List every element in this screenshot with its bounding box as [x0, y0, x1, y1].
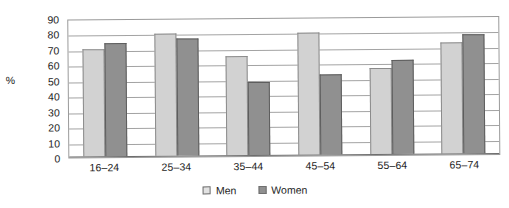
bar-men-55-64 — [369, 67, 392, 154]
bar-men-25-34 — [154, 34, 177, 156]
bar-group-45-54 — [283, 18, 356, 155]
y-axis-tick-80: 80 — [33, 30, 59, 41]
plot-area — [67, 16, 500, 158]
bar-group-35-44 — [212, 19, 285, 156]
y-axis-tick-10: 10 — [34, 138, 60, 149]
bar-women-35-44 — [248, 82, 271, 155]
legend-item-men: Men — [203, 184, 237, 196]
y-axis-tick-60: 60 — [34, 61, 60, 72]
x-axis-label-16-24: 16–24 — [68, 161, 140, 178]
y-axis-tick-70: 70 — [33, 45, 59, 56]
bar-chart: % 9080706050403020100 16–2425–3435–4445–… — [0, 0, 509, 208]
y-axis-tick-40: 40 — [34, 92, 60, 103]
bar-group-55-64 — [355, 18, 428, 155]
x-axis-label-55-64: 55–64 — [356, 159, 428, 176]
x-axis-label-35-44: 35–44 — [212, 160, 284, 177]
x-axis-label-65-74: 65–74 — [428, 158, 500, 175]
chart-legend: Men Women — [1, 182, 509, 198]
bar-men-65-74 — [441, 42, 464, 153]
legend-label-men: Men — [216, 184, 237, 196]
legend-label-women: Women — [271, 184, 307, 196]
y-axis-tick-90: 90 — [33, 15, 59, 26]
bar-women-65-74 — [463, 34, 486, 153]
bar-women-55-64 — [391, 60, 414, 154]
bar-men-45-54 — [297, 32, 320, 154]
bar-groups — [68, 17, 499, 156]
bar-group-16-24 — [68, 20, 141, 157]
y-axis-tick-20: 20 — [34, 123, 60, 134]
y-axis-tick-30: 30 — [34, 107, 60, 118]
bar-men-16-24 — [82, 50, 105, 157]
y-axis-tick-0: 0 — [34, 154, 60, 165]
legend-item-women: Women — [258, 184, 307, 196]
y-axis-unit-label: % — [6, 74, 15, 86]
x-axis-category-labels: 16–2425–3435–4445–5455–6465–74 — [68, 158, 500, 177]
chart-plot-wrapper: % 9080706050403020100 16–2425–3435–4445–… — [0, 0, 509, 208]
legend-swatch-women-icon — [258, 186, 266, 194]
bar-group-65-74 — [427, 17, 500, 154]
legend-swatch-men-icon — [203, 186, 211, 194]
bar-women-16-24 — [104, 43, 127, 156]
x-axis-label-25-34: 25–34 — [140, 160, 212, 177]
bar-women-45-54 — [320, 74, 343, 154]
y-axis-tick-labels: 9080706050403020100 — [0, 0, 508, 2]
bar-women-25-34 — [176, 38, 199, 156]
x-axis-label-45-54: 45–54 — [284, 159, 356, 176]
bar-group-25-34 — [140, 19, 213, 156]
y-axis-tick-50: 50 — [34, 76, 60, 87]
bar-men-35-44 — [226, 56, 249, 155]
